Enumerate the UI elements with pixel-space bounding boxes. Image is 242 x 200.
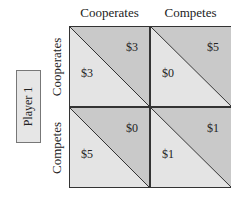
payoff-player2: $0 — [126, 121, 138, 136]
cell-cooperate-compete: $5 $0 — [150, 26, 231, 107]
payoff-matrix: $3 $3 $5 $0 $0 $5 $1 $1 — [69, 26, 232, 188]
payoff-player1: $1 — [162, 147, 174, 162]
player1-label-box: Player 1 — [16, 70, 41, 143]
payoff-player2: $5 — [207, 40, 219, 55]
payoff-player1: $0 — [162, 66, 174, 81]
payoff-player2: $1 — [207, 121, 219, 136]
column-label-competes: Competes — [150, 5, 231, 21]
row-label-competes: Competes — [47, 107, 67, 188]
payoff-player1: $3 — [81, 66, 93, 81]
payoff-player2: $3 — [126, 40, 138, 55]
row-label-cooperates: Cooperates — [47, 26, 67, 107]
cell-cooperate-cooperate: $3 $3 — [69, 26, 150, 107]
cell-compete-cooperate: $0 $5 — [69, 107, 150, 188]
row-label-competes-text: Competes — [49, 122, 65, 174]
payoff-player1: $5 — [81, 147, 93, 162]
row-label-cooperates-text: Cooperates — [49, 37, 65, 95]
column-label-cooperates: Cooperates — [69, 5, 150, 21]
player1-label: Player 1 — [21, 87, 36, 127]
cell-compete-compete: $1 $1 — [150, 107, 231, 188]
